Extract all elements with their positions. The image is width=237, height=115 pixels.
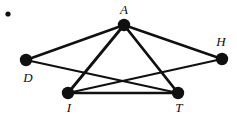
vertex-layer [20, 19, 228, 99]
marker-layer [5, 11, 10, 16]
vertex-label-a: A [120, 3, 128, 16]
graph-vertex-a [118, 19, 130, 31]
graph-canvas [0, 0, 237, 115]
graph-vertex-i [62, 87, 74, 99]
vertex-label-d: D [23, 71, 33, 84]
vertex-label-t: T [175, 101, 182, 114]
graph-vertex-t [172, 87, 184, 99]
bullet-marker-icon [5, 11, 10, 16]
graph-figure: ADHIT [0, 0, 237, 115]
edge-layer [26, 25, 222, 93]
graph-vertex-d [20, 54, 32, 66]
vertex-label-h: H [216, 35, 226, 48]
vertex-label-i: I [67, 101, 72, 114]
graph-vertex-h [216, 53, 228, 65]
